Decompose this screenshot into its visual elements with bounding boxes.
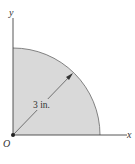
- origin-dot: [11, 133, 15, 137]
- quarter-circle-figure: y x O 3 in.: [0, 0, 135, 164]
- origin-label: O: [3, 138, 10, 149]
- y-axis-label: y: [8, 7, 14, 18]
- radius-label: 3 in.: [33, 100, 50, 110]
- x-axis-label: x: [126, 129, 132, 140]
- diagram-canvas: y x O 3 in.: [0, 0, 135, 164]
